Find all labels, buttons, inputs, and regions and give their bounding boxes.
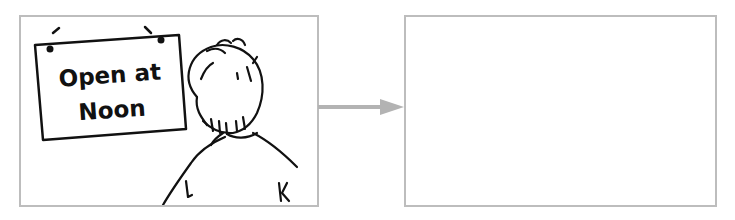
left-panel: Open at Noon <box>19 15 319 207</box>
sign-line-2: Noon <box>78 95 147 126</box>
right-panel-empty <box>404 15 717 207</box>
sign-hanger-icon <box>53 27 151 33</box>
sign-board: Open at Noon <box>35 35 186 140</box>
cartoon-scene: Open at Noon <box>21 17 317 205</box>
right-arrow-icon <box>318 97 406 117</box>
